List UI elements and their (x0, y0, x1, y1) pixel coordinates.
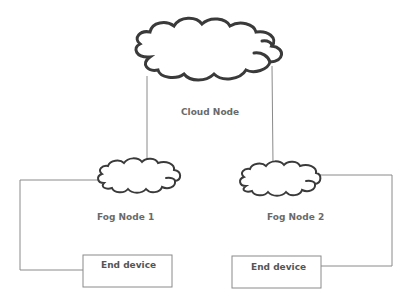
fog-node-2-shape (240, 161, 320, 195)
fog-node-1-shape (98, 158, 180, 192)
cloud-node-shape (136, 18, 282, 80)
end-device-2-label: End device (251, 262, 306, 272)
end-device-1-label: End device (101, 260, 156, 270)
edge-fog2-device2 (318, 175, 392, 266)
fog-node-2-label: Fog Node 2 (267, 212, 324, 222)
edge-cloud-fog2 (272, 66, 273, 164)
end-device-2-box (232, 256, 321, 288)
cloud-node-label: Cloud Node (181, 107, 239, 117)
fog-node-1-label: Fog Node 1 (97, 212, 154, 222)
diagram-canvas (0, 0, 408, 302)
